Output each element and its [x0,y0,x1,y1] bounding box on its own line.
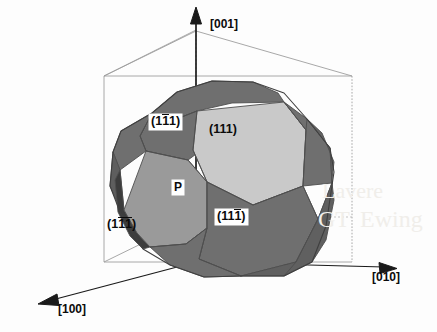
axis-x-line [52,262,196,300]
face-label-1bar11: (111) [149,114,182,130]
face-label-11bar1: (111) [215,209,248,225]
axis-label-001: [001] [210,18,238,30]
face-label-1bar1bar: (111) [107,218,136,231]
axis-z-arrowhead [191,7,202,24]
axis-x-arrowhead [38,294,59,306]
face-P-mid [124,151,207,247]
axis-label-010: [010] [372,271,400,283]
wulff-polyhedron [110,81,334,277]
point-label-p: P [172,180,184,195]
axis-label-100: [100] [58,303,86,315]
face-label-111: (111) [209,123,237,136]
figure-canvas: [001] [010] [100] (111) (111) P (111) (1… [0,0,437,332]
